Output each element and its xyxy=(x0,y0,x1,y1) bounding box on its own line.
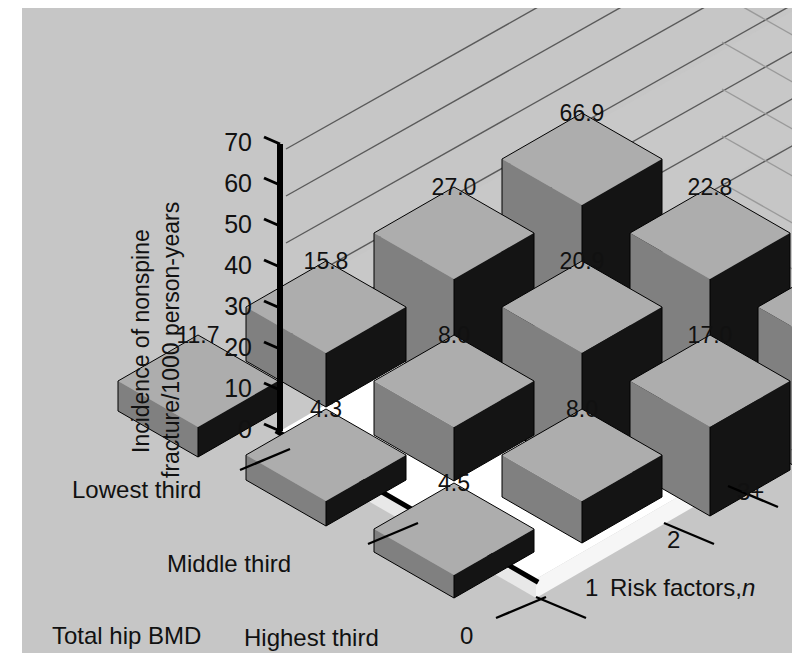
value-label-lowest-0: 11.7 xyxy=(162,322,234,349)
figure-root: Incidence of nonspine fracture/1000 pers… xyxy=(0,0,812,671)
z-axis-title: Total hip BMD xyxy=(52,622,201,650)
y-axis-title-line2: fracture/1000 person-years xyxy=(156,138,186,478)
chart-panel: Incidence of nonspine fracture/1000 pers… xyxy=(22,8,792,653)
x-axis-title: Risk factors,n xyxy=(610,574,755,602)
value-label-highest-1: 8.0 xyxy=(546,396,618,423)
y-axis-title-line1: Incidence of nonspine xyxy=(126,133,156,453)
value-label-middle-0: 4.3 xyxy=(290,396,362,423)
y-tick-60: 60 xyxy=(194,169,252,198)
x-tick-3plus: 3+ xyxy=(737,478,764,506)
z-tick-highest-third: Highest third xyxy=(244,624,379,652)
value-label-highest-0: 4.5 xyxy=(418,470,490,497)
z-tick-middle-third: Middle third xyxy=(167,550,291,578)
value-label-lowest-2: 27.0 xyxy=(418,174,490,201)
y-tick-30: 30 xyxy=(194,292,252,321)
z-tick-lowest-third: Lowest third xyxy=(72,476,201,504)
value-label-middle-2: 20.9 xyxy=(546,248,618,275)
y-tick-50: 50 xyxy=(194,210,252,239)
y-tick-10: 10 xyxy=(194,374,252,403)
y-tick-40: 40 xyxy=(194,251,252,280)
x-tick-2: 2 xyxy=(667,526,680,554)
value-label-highest-2: 17.0 xyxy=(674,322,746,349)
y-axis-title-line2-wrap: fracture/1000 person-years xyxy=(156,138,186,478)
value-label-lowest-3plus: 66.9 xyxy=(546,100,618,127)
x-tick-0: 0 xyxy=(460,622,473,650)
x-axis-title-text: Risk factors, xyxy=(610,574,742,601)
x-tick-1: 1 xyxy=(585,574,598,602)
value-label-middle-3plus: 22.8 xyxy=(674,174,746,201)
y-axis-title: Incidence of nonspine xyxy=(126,133,156,453)
y-tick-70: 70 xyxy=(194,128,252,157)
value-label-lowest-1: 15.8 xyxy=(290,248,362,275)
chart-3d-scene: Incidence of nonspine fracture/1000 pers… xyxy=(22,8,792,653)
x-axis-title-italic: n xyxy=(742,574,755,601)
y-tick-0: 0 xyxy=(194,415,252,444)
value-label-middle-1: 8.0 xyxy=(418,322,490,349)
